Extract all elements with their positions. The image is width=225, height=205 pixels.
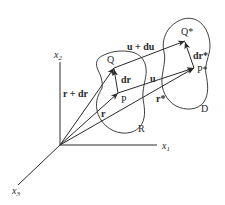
label-r-star: r*: [156, 93, 165, 104]
vector-r-plus-dr: [60, 68, 114, 145]
region-r-label: R: [138, 123, 145, 134]
vector-dr: [114, 69, 118, 93]
x2-axis-label: x2: [53, 49, 62, 62]
x1-axis-label: x1: [161, 140, 170, 153]
vector-r: [60, 93, 118, 145]
point-p-label: P: [121, 94, 127, 105]
label-dr-star: dr*: [193, 50, 208, 61]
deformation-diagram: x2 x1 x3 Q P Q* P* r + dr r dr u u + du …: [0, 0, 225, 205]
label-dr: dr: [121, 74, 132, 85]
point-q-label: Q: [107, 54, 115, 65]
point-p-star-label: P*: [197, 64, 208, 75]
label-u-plus-du: u + du: [127, 41, 155, 52]
region-d-label: D: [201, 103, 208, 114]
x3-axis: [18, 145, 60, 185]
label-u: u: [150, 73, 156, 84]
point-q-star-label: Q*: [181, 26, 193, 37]
coordinate-axes: [18, 62, 157, 185]
label-r-plus-dr: r + dr: [63, 88, 89, 99]
x3-axis-label: x3: [11, 185, 20, 198]
label-r: r: [101, 108, 106, 119]
